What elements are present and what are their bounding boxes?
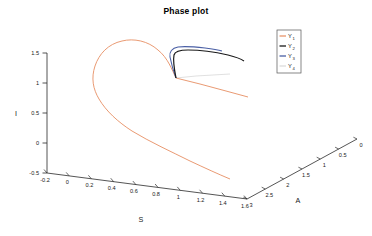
axis-a-tick-0: 3	[249, 202, 252, 208]
legend-label-y4: Y	[288, 63, 292, 69]
legend-label-y3: Y	[288, 53, 292, 59]
axis-a: 3 2.5 2 1.5 1 0.5 0 A	[243, 137, 362, 208]
axis-i-tick-2: 0.5	[31, 110, 39, 116]
axis-s-tick-4: 0.6	[130, 188, 138, 194]
axis-i: 1.5 1 0.5 0 -0.5 I	[15, 50, 47, 176]
phase-plot-figure: Phase plot 1.5 1 0.5 0 -0.5 I	[0, 0, 372, 236]
axis-a-tick-1: 2.5	[265, 192, 273, 198]
axis-s-tick-3: 0.4	[108, 185, 116, 191]
axis-s-tick-1: 0	[66, 179, 69, 185]
axis-i-tick-4: -0.5	[29, 170, 39, 176]
axis-s-tick-0: -0.2	[40, 177, 50, 183]
axis-s-tick-6: 1	[177, 194, 180, 200]
axis-s-label: S	[139, 215, 144, 224]
axis-a-tick-2: 2	[286, 182, 289, 188]
axis-a-tick-3: 1.5	[302, 172, 310, 178]
legend[interactable]: Y 1 Y 2 Y 3 Y 4	[277, 30, 301, 73]
axis-a-tick-5: 0.5	[339, 152, 347, 158]
axis-a-tick-4: 1	[323, 162, 326, 168]
axis-s-tick-2: 0.2	[86, 182, 94, 188]
plot-canvas: 1.5 1 0.5 0 -0.5 I -0.2 0 0.2 0.4 0.6	[0, 0, 372, 236]
legend-label-y2: Y	[288, 43, 292, 49]
axis-s-tick-8: 1.4	[219, 200, 227, 206]
axis-i-tick-1: 1	[36, 80, 39, 86]
axis-s: -0.2 0 0.2 0.4 0.6 0.8 1 1.2 1.4 1.6 S	[40, 170, 249, 225]
axis-s-tick-7: 1.2	[197, 197, 205, 203]
series-y4-curve	[176, 74, 230, 78]
axis-a-tick-6: 0	[359, 142, 362, 148]
series-y2-curve	[174, 50, 244, 78]
legend-label-y1: Y	[288, 33, 292, 39]
axis-i-tick-3: 0	[36, 140, 39, 146]
axis-i-tick-0: 1.5	[31, 50, 39, 56]
axis-s-tick-9: 1.6	[241, 203, 249, 209]
axis-a-label: A	[296, 196, 301, 205]
axis-i-label: I	[15, 109, 17, 118]
axis-s-tick-5: 0.8	[152, 191, 160, 197]
